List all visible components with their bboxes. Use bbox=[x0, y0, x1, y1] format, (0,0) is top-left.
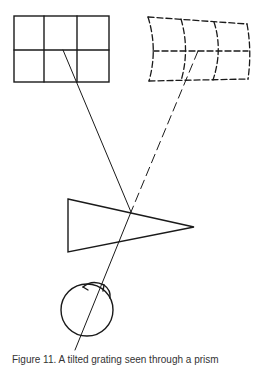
apparent-ray bbox=[131, 51, 198, 212]
actual-ray bbox=[63, 50, 131, 212]
refracted-ray bbox=[75, 212, 131, 350]
eye bbox=[61, 282, 113, 336]
figure-caption: Figure 11. A tilted grating seen through… bbox=[12, 354, 219, 366]
virtual-grid bbox=[148, 17, 250, 81]
prism bbox=[68, 199, 194, 252]
object-grid bbox=[14, 16, 109, 82]
